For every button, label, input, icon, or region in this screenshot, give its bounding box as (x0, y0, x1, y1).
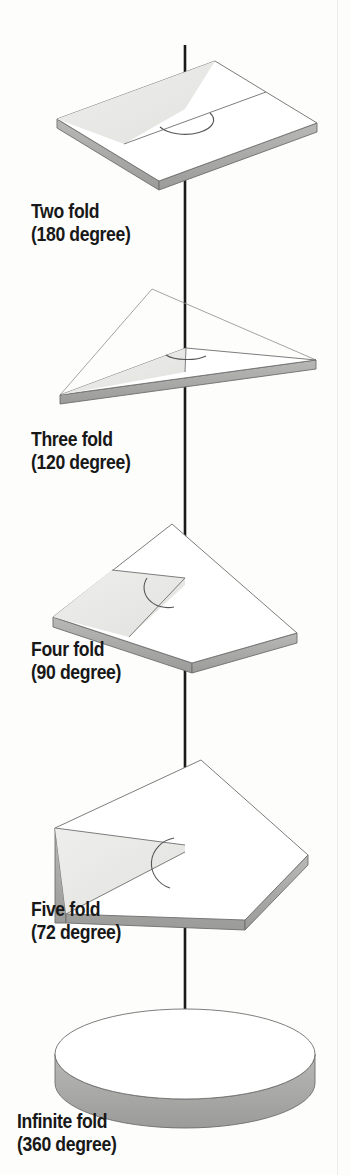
label-five-fold-line1: Five fold (31, 898, 121, 921)
infinite-fold-top-face (55, 1009, 315, 1099)
label-five-fold-line2: (72 degree) (31, 921, 121, 944)
label-infinite-fold: Infinite fold (360 degree) (17, 1110, 116, 1156)
label-infinite-fold-line2: (360 degree) (17, 1133, 116, 1156)
shape-two-fold (57, 61, 317, 190)
label-four-fold-line1: Four fold (31, 638, 121, 661)
symmetry-axis-diagram (0, 0, 351, 1175)
label-two-fold-line1: Two fold (31, 200, 130, 223)
label-five-fold: Five fold (72 degree) (31, 898, 121, 944)
label-three-fold: Three fold (120 degree) (31, 428, 130, 474)
shape-three-fold (60, 289, 316, 404)
label-three-fold-line1: Three fold (31, 428, 130, 451)
label-two-fold: Two fold (180 degree) (31, 200, 130, 246)
label-four-fold: Four fold (90 degree) (31, 638, 121, 684)
label-four-fold-line2: (90 degree) (31, 661, 121, 684)
label-three-fold-line2: (120 degree) (31, 451, 130, 474)
label-two-fold-line2: (180 degree) (31, 223, 130, 246)
label-infinite-fold-line1: Infinite fold (17, 1110, 116, 1133)
